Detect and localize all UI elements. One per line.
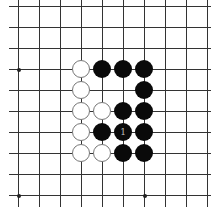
black-stone[interactable] [114, 60, 132, 78]
go-board[interactable]: 1 [0, 0, 211, 212]
black-stone[interactable] [93, 123, 111, 141]
black-stone[interactable] [93, 60, 111, 78]
white-stone[interactable] [72, 144, 90, 162]
grid-line-vertical [39, 0, 40, 207]
star-point [143, 194, 147, 198]
star-point [17, 68, 21, 72]
white-stone[interactable] [72, 123, 90, 141]
black-stone[interactable] [135, 144, 153, 162]
grid-line-vertical [186, 0, 187, 207]
grid-line-vertical [60, 0, 61, 207]
black-stone[interactable] [135, 102, 153, 120]
grid-line-vertical [165, 0, 166, 207]
black-stone[interactable] [114, 102, 132, 120]
star-point [17, 194, 21, 198]
black-stone[interactable] [135, 81, 153, 99]
grid-line-vertical [18, 0, 19, 207]
grid-line-vertical [207, 0, 208, 207]
black-stone[interactable] [135, 60, 153, 78]
black-stone[interactable] [135, 123, 153, 141]
black-stone[interactable]: 1 [114, 123, 132, 141]
white-stone[interactable] [72, 102, 90, 120]
black-stone[interactable] [114, 144, 132, 162]
white-stone[interactable] [72, 60, 90, 78]
move-number-label: 1 [120, 128, 126, 137]
white-stone[interactable] [93, 144, 111, 162]
white-stone[interactable] [93, 102, 111, 120]
white-stone[interactable] [72, 81, 90, 99]
